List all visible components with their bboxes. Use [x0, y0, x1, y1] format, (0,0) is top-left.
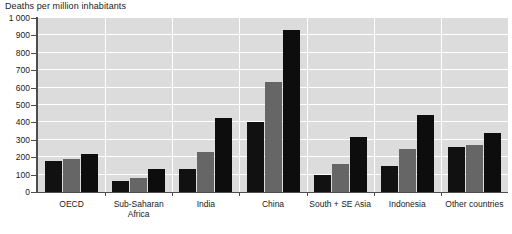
y-axis-tick: 600: [0, 83, 30, 93]
x-axis-tick-mark: [172, 193, 173, 196]
y-axis-tick-label: 100: [0, 170, 30, 180]
group-separator: [441, 18, 442, 192]
chart-axis-title: Deaths per million inhabitants: [5, 1, 126, 11]
y-axis-tick: 200: [0, 152, 30, 162]
group-separator: [374, 18, 375, 192]
y-axis-tick-mark: [31, 175, 36, 176]
bar: [314, 175, 331, 192]
y-axis-tick: 400: [0, 117, 30, 127]
bar: [63, 159, 80, 192]
x-axis-spine: [36, 192, 508, 193]
bar: [350, 137, 367, 192]
bar: [466, 145, 483, 192]
gridline: [38, 52, 508, 53]
bar: [179, 169, 196, 192]
y-axis-tick: 300: [0, 135, 30, 145]
gridline: [38, 69, 508, 70]
bar: [112, 181, 129, 192]
bar: [197, 152, 214, 192]
bar: [81, 154, 98, 192]
bar: [45, 161, 62, 192]
group-separator: [307, 18, 308, 192]
x-axis-category-label: Indonesia: [374, 199, 441, 209]
group-separator: [172, 18, 173, 192]
bar: [484, 133, 501, 192]
x-axis-tick-mark: [374, 193, 375, 196]
x-axis-category-label: OECD: [38, 199, 105, 209]
bar: [332, 164, 349, 192]
y-axis-tick-label: 600: [0, 83, 30, 93]
y-axis-tick-mark: [31, 157, 36, 158]
y-axis-tick-mark: [31, 88, 36, 89]
y-axis-tick-mark: [31, 140, 36, 141]
x-axis-tick-mark: [307, 193, 308, 196]
bar: [399, 149, 416, 193]
x-axis-tick-mark: [441, 193, 442, 196]
y-axis-tick: 500: [0, 100, 30, 110]
group-separator: [105, 18, 106, 192]
bar: [130, 178, 147, 192]
y-axis-tick-label: 500: [0, 100, 30, 110]
y-axis-tick-mark: [31, 53, 36, 54]
y-axis-tick: 1 000: [0, 13, 30, 23]
x-axis-tick-mark: [239, 193, 240, 196]
bar: [265, 82, 282, 192]
x-axis-category-label: Sub-Saharan Africa: [105, 199, 172, 219]
bar: [283, 30, 300, 192]
y-axis-tick-label: 1 000: [0, 13, 30, 23]
y-axis-tick: 0: [0, 187, 30, 197]
bar: [448, 147, 465, 192]
bar-chart: Deaths per million inhabitants 010020030…: [0, 0, 512, 234]
x-axis-category-label: India: [172, 199, 239, 209]
bar: [417, 115, 434, 192]
group-separator: [239, 18, 240, 192]
y-axis-tick-mark: [31, 18, 36, 19]
x-axis-category-label: China: [239, 199, 306, 209]
y-axis-tick: 100: [0, 170, 30, 180]
y-axis-tick-label: 800: [0, 48, 30, 58]
bar: [381, 166, 398, 192]
y-axis-tick-label: 400: [0, 117, 30, 127]
y-axis-tick-mark: [31, 70, 36, 71]
y-axis-tick-label: 700: [0, 65, 30, 75]
y-axis-tick-mark: [31, 105, 36, 106]
y-axis-tick-mark: [31, 192, 36, 193]
plot-area: [38, 18, 508, 192]
y-axis-tick-mark: [31, 122, 36, 123]
y-axis-tick-label: 900: [0, 30, 30, 40]
y-axis-tick-label: 0: [0, 187, 30, 197]
y-axis-tick: 700: [0, 65, 30, 75]
y-axis-tick: 800: [0, 48, 30, 58]
y-axis-tick-label: 300: [0, 135, 30, 145]
y-axis-tick: 900: [0, 30, 30, 40]
x-axis-category-label: South + SE Asia: [307, 199, 374, 209]
bar: [215, 118, 232, 192]
y-axis-tick-label: 200: [0, 152, 30, 162]
bar: [148, 169, 165, 192]
x-axis-category-label: Other countries: [441, 199, 508, 209]
y-axis-tick-mark: [31, 35, 36, 36]
bar: [247, 122, 264, 192]
x-axis-tick-mark: [105, 193, 106, 196]
gridline: [38, 34, 508, 35]
